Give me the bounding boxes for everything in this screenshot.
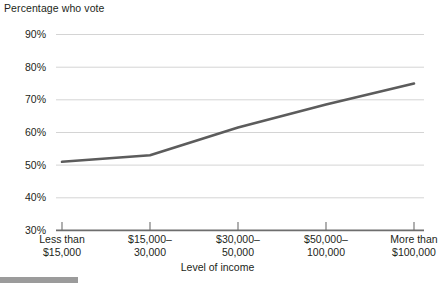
y-tick-label-60: 60% xyxy=(2,127,46,138)
gridlines xyxy=(56,35,424,198)
y-tick-label-50: 50% xyxy=(2,160,46,171)
data-line-series-0 xyxy=(62,84,414,162)
page-footer-bar xyxy=(0,277,78,283)
y-tick-label-70: 70% xyxy=(2,94,46,105)
y-tick-label-90: 90% xyxy=(2,29,46,40)
y-tick-label-80: 80% xyxy=(2,62,46,73)
x-tick-label-4: More than $100,000 xyxy=(362,233,442,258)
x-axis-title: Level of income xyxy=(0,261,435,273)
x-axis-ticks xyxy=(62,222,414,230)
y-tick-label-40: 40% xyxy=(2,192,46,203)
